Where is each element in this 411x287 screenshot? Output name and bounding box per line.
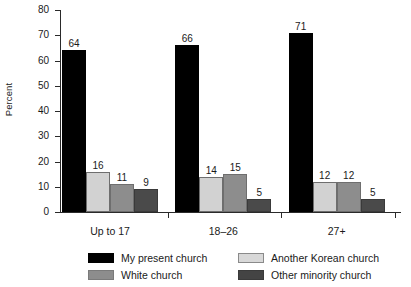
bar-value-label: 12 xyxy=(319,170,330,181)
bar-value-label: 14 xyxy=(206,165,217,176)
bar: 14 xyxy=(199,177,223,212)
chart-legend: My present churchAnother Korean churchWh… xyxy=(88,252,388,284)
bar-value-label: 64 xyxy=(68,38,79,49)
bar: 5 xyxy=(361,199,385,212)
bar-value-label: 16 xyxy=(92,160,103,171)
x-axis-group-label: 18–26 xyxy=(209,225,238,237)
bar-value-label: 5 xyxy=(370,187,376,198)
legend-label: Another Korean church xyxy=(271,252,379,264)
y-axis-tick-label: 80 xyxy=(9,5,49,15)
bar: 71 xyxy=(289,33,313,212)
y-axis-tick-label: 70 xyxy=(9,30,49,40)
y-axis-tick xyxy=(55,61,60,62)
y-axis-title: Percent xyxy=(3,70,14,130)
y-axis-line xyxy=(60,10,61,213)
y-axis-tick xyxy=(55,35,60,36)
legend-item: My present church xyxy=(88,252,207,264)
legend-swatch-icon xyxy=(238,270,264,280)
legend-label: White church xyxy=(121,269,182,281)
legend-item: White church xyxy=(88,269,182,281)
plot-area: 01020304050607080 641611966141557112125 … xyxy=(60,10,400,212)
y-axis-tick-label: 30 xyxy=(9,131,49,141)
legend-item: Another Korean church xyxy=(238,252,379,264)
y-axis-tick xyxy=(55,187,60,188)
bar: 9 xyxy=(134,189,158,212)
legend-item: Other minority church xyxy=(238,269,371,281)
y-axis-tick xyxy=(55,111,60,112)
y-axis-tick xyxy=(55,86,60,87)
bar-value-label: 5 xyxy=(257,187,263,198)
y-axis-tick xyxy=(55,212,60,213)
x-axis-tick xyxy=(281,213,282,218)
bar: 64 xyxy=(62,50,86,212)
bar-value-label: 12 xyxy=(343,170,354,181)
y-axis-tick-label: 20 xyxy=(9,157,49,167)
legend-label: My present church xyxy=(121,252,207,264)
legend-swatch-icon xyxy=(88,270,114,280)
legend-swatch-icon xyxy=(88,253,114,263)
bar: 5 xyxy=(247,199,271,212)
bar-value-label: 11 xyxy=(117,172,127,183)
y-axis-tick-label: 10 xyxy=(9,182,49,192)
legend-label: Other minority church xyxy=(271,269,371,281)
y-axis-tick xyxy=(55,10,60,11)
y-axis-tick-label: 50 xyxy=(9,81,49,91)
bar: 16 xyxy=(86,172,110,212)
bar: 12 xyxy=(313,182,337,212)
x-axis-tick xyxy=(395,213,396,218)
y-axis-tick-label: 0 xyxy=(9,207,49,217)
bar-value-label: 9 xyxy=(143,177,149,188)
bar-value-label: 15 xyxy=(230,162,241,173)
bar: 15 xyxy=(223,174,247,212)
bar: 12 xyxy=(337,182,361,212)
bar: 66 xyxy=(175,45,199,212)
x-axis-tick xyxy=(168,213,169,218)
bar: 11 xyxy=(110,184,134,212)
bar-value-label: 66 xyxy=(182,33,193,44)
x-axis-line xyxy=(60,212,401,213)
bar-value-label: 71 xyxy=(295,21,306,32)
y-axis-tick-label: 40 xyxy=(9,106,49,116)
y-axis-tick xyxy=(55,162,60,163)
bar-chart: Percent 01020304050607080 64161196614155… xyxy=(0,0,411,287)
y-axis-tick-label: 60 xyxy=(9,56,49,66)
x-axis-group-label: 27+ xyxy=(328,225,346,237)
legend-swatch-icon xyxy=(238,253,264,263)
x-axis-group-label: Up to 17 xyxy=(90,225,130,237)
y-axis-tick xyxy=(55,136,60,137)
